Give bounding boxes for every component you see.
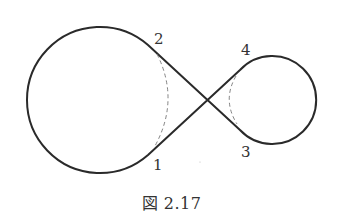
point-label-1: 1 <box>153 156 163 174</box>
figure-caption: 図 2.17 <box>0 190 343 214</box>
figure-eight-curve <box>27 27 316 173</box>
figure-eight-diagram: 2 1 4 3 <box>0 0 343 219</box>
point-label-2: 2 <box>154 30 164 48</box>
left-dashed-arc <box>155 54 168 146</box>
right-dashed-arc <box>229 76 237 124</box>
point-label-3: 3 <box>241 143 251 161</box>
point-label-4: 4 <box>241 41 251 59</box>
scan-speck <box>199 161 200 162</box>
